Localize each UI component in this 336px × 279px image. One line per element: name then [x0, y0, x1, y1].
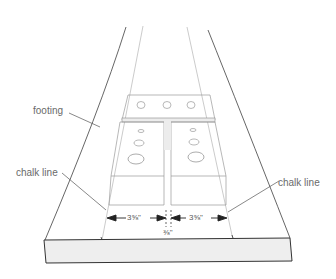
- arrow-left-icon: [107, 215, 116, 221]
- dimension-lines: [107, 210, 227, 227]
- right-width-dimension: 3⅝": [189, 214, 203, 222]
- footing-diagram: footing chalk line chalk line 3⅝" 3⅝" ⅜": [0, 0, 336, 279]
- chalk-line-right-label: chalk line: [278, 178, 320, 188]
- arrow-right-icon: [218, 215, 227, 221]
- footing-front-face: [44, 238, 292, 263]
- right-block: [164, 120, 226, 205]
- gap-dimension: ⅜": [163, 229, 173, 237]
- core-hole-icon: [163, 102, 171, 109]
- arrow-left-icon: [171, 215, 180, 221]
- top-block: [122, 95, 215, 122]
- left-block: [109, 122, 164, 205]
- core-hole-icon: [187, 102, 195, 109]
- core-hole-icon: [137, 102, 145, 109]
- chalk-line-left-label: chalk line: [16, 168, 58, 178]
- left-width-dimension: 3⅝": [127, 214, 141, 222]
- footing-label: footing: [33, 106, 63, 116]
- arrow-right-icon: [157, 215, 166, 221]
- footing-illustration: [0, 0, 336, 279]
